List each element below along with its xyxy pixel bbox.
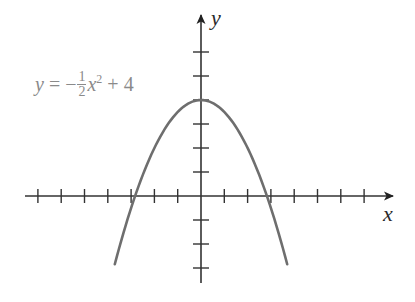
x-axis-label: x — [382, 201, 393, 226]
equation-constant: 4 — [124, 73, 134, 95]
equation-plus: + — [107, 73, 118, 95]
equation-lhs: y — [35, 73, 44, 95]
equation-annotation: y = −12x2 + 4 — [35, 72, 134, 101]
fraction-numerator: 1 — [77, 70, 86, 85]
equation-sign: − — [65, 73, 76, 95]
equation-variable: x — [87, 73, 96, 95]
equation-exponent: 2 — [96, 72, 102, 86]
fraction-denominator: 2 — [77, 85, 86, 99]
equation-fraction: 12 — [77, 70, 86, 99]
coordinate-plane: x y — [0, 0, 415, 302]
equation-equals: = — [49, 73, 60, 95]
y-axis-label: y — [209, 5, 221, 30]
